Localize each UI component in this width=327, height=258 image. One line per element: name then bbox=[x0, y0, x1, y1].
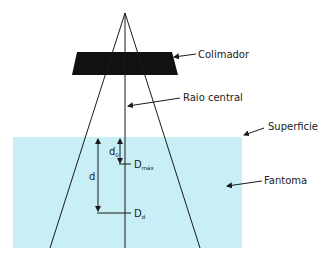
phantom-label: Fantoma bbox=[264, 175, 307, 186]
radiation-beam-diagram: Colimador Raio central Superficie Fantom… bbox=[0, 0, 327, 258]
central-ray-label: Raio central bbox=[183, 92, 243, 103]
d-label: d bbox=[89, 171, 95, 182]
surface-arrow bbox=[244, 128, 264, 135]
collimator-label: Colimador bbox=[198, 49, 250, 60]
collimator-arrow bbox=[174, 54, 196, 57]
phantom-box bbox=[13, 137, 242, 248]
surface-label: Superficie bbox=[268, 121, 318, 132]
